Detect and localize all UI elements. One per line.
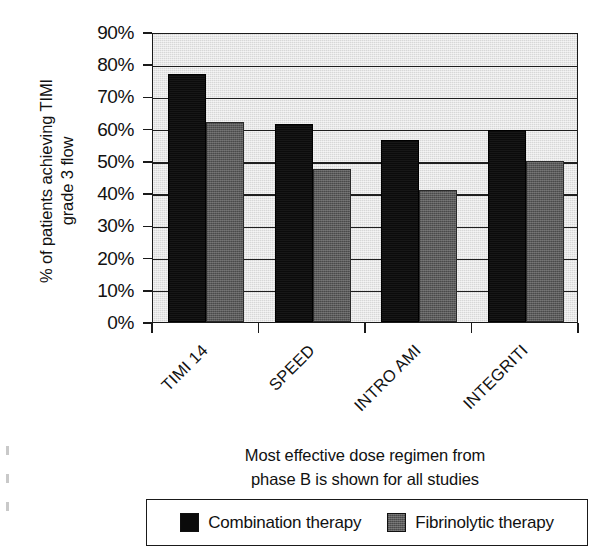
y-axis-tick bbox=[143, 226, 152, 228]
chart-legend: Combination therapyFibrinolytic therapy bbox=[146, 499, 588, 546]
plot-area bbox=[152, 33, 578, 323]
y-axis-tick bbox=[143, 129, 152, 131]
gridline bbox=[153, 66, 577, 67]
bar-combination-therapy-speed bbox=[275, 124, 313, 322]
legend-swatch-icon bbox=[387, 513, 406, 532]
y-axis-tick-label: 10% bbox=[78, 281, 134, 300]
legend-item: Fibrinolytic therapy bbox=[387, 513, 554, 533]
bar-chart-figure: % of patients achieving TIMI grade 3 flo… bbox=[0, 0, 609, 556]
y-axis-tick bbox=[143, 161, 152, 163]
y-axis-tick-label: 50% bbox=[78, 152, 134, 171]
y-axis-tick bbox=[143, 290, 152, 292]
legend-label: Fibrinolytic therapy bbox=[415, 513, 554, 533]
x-axis-tick bbox=[151, 323, 153, 333]
bar-combination-therapy-integriti bbox=[488, 130, 526, 322]
bar-combination-therapy-timi-14 bbox=[168, 74, 206, 322]
y-axis-tick-label: 70% bbox=[78, 87, 134, 106]
y-axis-tick-label: 30% bbox=[78, 216, 134, 235]
x-axis-tick bbox=[471, 323, 473, 333]
x-axis-tick bbox=[258, 323, 260, 333]
x-axis-label: Most effective dose regimen from phase B… bbox=[152, 443, 578, 491]
legend-label: Combination therapy bbox=[208, 513, 361, 533]
bar-fibrinolytic-therapy-timi-14 bbox=[206, 122, 244, 322]
y-axis-tick-label: 0% bbox=[78, 313, 134, 332]
bar-fibrinolytic-therapy-integriti bbox=[526, 161, 564, 322]
y-axis-tick bbox=[143, 32, 152, 34]
x-axis-tick bbox=[364, 323, 366, 333]
y-axis-tick-label: 20% bbox=[78, 249, 134, 268]
bar-fibrinolytic-therapy-speed bbox=[313, 169, 351, 322]
y-axis-tick bbox=[143, 258, 152, 260]
bar-combination-therapy-intro-ami bbox=[381, 140, 419, 322]
y-axis-tick-label: 90% bbox=[78, 23, 134, 42]
legend-swatch-icon bbox=[180, 513, 199, 532]
y-axis-tick-label: 80% bbox=[78, 55, 134, 74]
y-axis-tick bbox=[143, 64, 152, 66]
y-axis-tick-label: 60% bbox=[78, 120, 134, 139]
x-axis-tick bbox=[577, 323, 579, 333]
legend-item: Combination therapy bbox=[180, 513, 361, 533]
bar-fibrinolytic-therapy-intro-ami bbox=[419, 190, 457, 322]
gridline bbox=[153, 98, 577, 99]
y-axis-tick bbox=[143, 193, 152, 195]
y-axis-tick-label: 40% bbox=[78, 184, 134, 203]
y-axis-tick bbox=[143, 97, 152, 99]
